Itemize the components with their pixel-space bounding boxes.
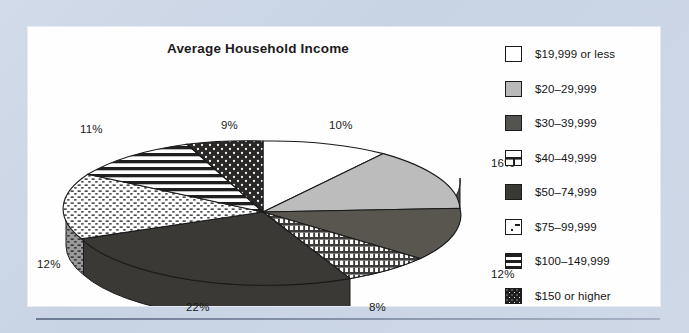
- legend-swatch-horizontal-lines: [505, 253, 522, 269]
- legend-item-19999-or-less[interactable]: $19,999 or less: [505, 37, 665, 72]
- legend-swatch-dark-dots: [505, 288, 522, 304]
- legend-item-75-99999[interactable]: $75–99,999: [505, 210, 665, 245]
- pie-chart: 10% 16% 12% 8% 22% 12% 11% 9%: [28, 27, 498, 306]
- legend-swatch-solid-midgray: [505, 115, 522, 131]
- legend-item-100-149999[interactable]: $100–149,999: [505, 244, 665, 279]
- legend-swatch-solid-darkgray: [505, 184, 522, 200]
- legend-item-50-74999[interactable]: $50–74,999: [505, 175, 665, 210]
- pie-label-8: 8%: [369, 301, 386, 313]
- legend-label: $30–39,999: [535, 117, 597, 129]
- pie-label-10: 10%: [329, 119, 353, 131]
- legend-label: $150 or higher: [535, 290, 611, 302]
- legend-label: $40–49,999: [535, 152, 597, 164]
- legend-swatch-solid-white: [505, 46, 522, 62]
- legend-item-30-39999[interactable]: $30–39,999: [505, 106, 665, 141]
- legend-label: $19,999 or less: [535, 48, 615, 60]
- legend-label: $75–99,999: [535, 221, 597, 233]
- legend-item-40-49999[interactable]: $40–49,999: [505, 141, 665, 176]
- pie-label-11: 11%: [80, 123, 103, 135]
- legend-swatch-solid-lightgray: [505, 81, 522, 97]
- legend-label: $20–29,999: [535, 83, 597, 95]
- legend-swatch-sparse-dots: [505, 219, 522, 235]
- pie-label-22: 22%: [186, 301, 210, 313]
- bottom-divider: [36, 318, 660, 320]
- legend-swatch-brick: [505, 150, 522, 166]
- legend-item-20-29999[interactable]: $20–29,999: [505, 72, 665, 107]
- legend-label: $100–149,999: [535, 255, 610, 267]
- legend-item-150-or-higher[interactable]: $150 or higher: [505, 279, 665, 314]
- pie-label-9: 9%: [221, 119, 238, 131]
- pie-chart-svg: [28, 27, 498, 306]
- legend: $19,999 or less $20–29,999 $30–39,999 $4…: [505, 37, 665, 313]
- pie-label-12-left: 12%: [37, 258, 61, 270]
- chart-card: Average Household Income: [28, 27, 660, 306]
- legend-label: $50–74,999: [535, 186, 597, 198]
